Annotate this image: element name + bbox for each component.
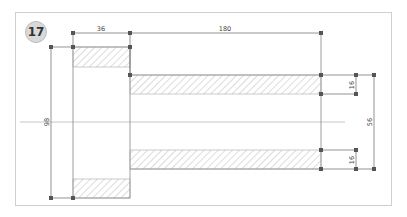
section-drawing: 36 180 98 56 16 16 (0, 0, 407, 217)
dim-wall-bottom: 16 (348, 156, 356, 164)
dim-wall-top: 16 (348, 81, 356, 89)
flange-hatch-bottom (73, 179, 130, 198)
hub-hatch-bottom (130, 150, 321, 169)
flange-hatch-top (73, 47, 130, 67)
dim-hub-length: 180 (219, 25, 231, 33)
flange-outline (73, 47, 130, 198)
hub-hatch-top (130, 75, 321, 94)
dim-hub-diameter: 56 (366, 118, 374, 126)
dim-flange-width: 36 (97, 25, 105, 33)
dim-flange-diameter: 98 (43, 118, 51, 126)
